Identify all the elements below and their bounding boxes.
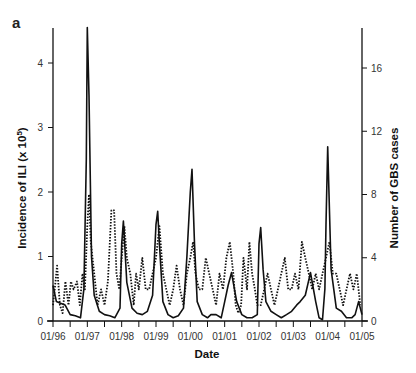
x-tick-label: 01/01 (212, 331, 237, 342)
right-axis-title: Number of GBS cases (388, 128, 400, 249)
right-tick-label: 4 (371, 252, 377, 263)
right-tick-label: 16 (371, 63, 383, 74)
x-tick-label: 01/96 (40, 331, 65, 342)
x-tick-label: 01/03 (281, 331, 306, 342)
x-tick-label: 01/99 (143, 331, 168, 342)
left-tick-label: 1 (37, 251, 43, 262)
left-axis-title: Incidence of ILI (x 105) (15, 127, 28, 249)
x-axis-title: Date (195, 348, 220, 360)
right-tick-label: 8 (371, 189, 377, 200)
x-tick-label: 01/98 (109, 331, 134, 342)
x-tick-label: 01/02 (246, 331, 271, 342)
x-tick-label: 01/97 (75, 331, 100, 342)
right-tick-label: 0 (371, 316, 377, 327)
x-tick-label: 01/00 (178, 331, 203, 342)
left-tick-label: 2 (37, 187, 43, 198)
left-tick-label: 4 (37, 58, 43, 69)
series-layer (53, 28, 362, 320)
chart: 01234048121601/9601/9701/9801/9901/0001/… (0, 0, 416, 373)
right-tick-label: 12 (371, 126, 383, 137)
left-tick-label: 3 (37, 122, 43, 133)
left-tick-label: 0 (37, 316, 43, 327)
x-tick-label: 01/04 (315, 331, 340, 342)
x-tick-label: 01/05 (349, 331, 374, 342)
